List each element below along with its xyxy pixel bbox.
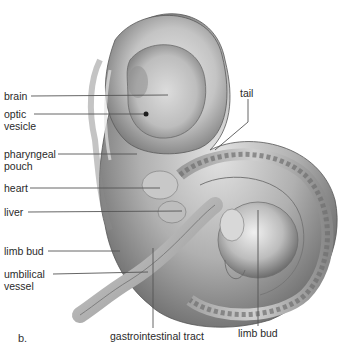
label-liver-text: liver xyxy=(4,206,23,218)
label-limb-bud-lower-text: limb bud xyxy=(238,327,278,339)
label-gastrointestinal-tract: gastrointestinal tract xyxy=(110,330,204,342)
label-limb-bud-upper: limb bud xyxy=(4,245,44,257)
label-umbilical-vessel-line1: umbilical xyxy=(4,268,45,280)
label-tail: tail xyxy=(240,87,253,99)
label-optic-vesicle: optic vesicle xyxy=(4,108,36,132)
embryo-illustration xyxy=(0,0,344,345)
label-umbilical-vessel-line2: vessel xyxy=(4,280,45,292)
label-brain: brain xyxy=(4,90,27,102)
label-brain-text: brain xyxy=(4,90,27,102)
label-optic-vesicle-line2: vesicle xyxy=(4,120,36,132)
label-pharyngeal-pouch: pharyngeal pouch xyxy=(4,148,56,172)
optic-vesicle-dot xyxy=(144,112,149,117)
label-limb-bud-lower: limb bud xyxy=(238,327,278,339)
heart-bulge xyxy=(142,171,178,199)
label-tail-text: tail xyxy=(240,87,253,99)
label-heart: heart xyxy=(4,182,28,194)
label-pharyngeal-pouch-line2: pouch xyxy=(4,160,56,172)
label-limb-bud-upper-text: limb bud xyxy=(4,245,44,257)
label-gastrointestinal-tract-text: gastrointestinal tract xyxy=(110,330,204,342)
label-pharyngeal-pouch-line1: pharyngeal xyxy=(4,148,56,160)
label-optic-vesicle-line1: optic xyxy=(4,108,36,120)
label-heart-text: heart xyxy=(4,182,28,194)
panel-letter: b. xyxy=(18,332,27,344)
liver-bulge xyxy=(158,201,186,223)
label-umbilical-vessel: umbilical vessel xyxy=(4,268,45,292)
label-liver: liver xyxy=(4,206,23,218)
embryo-diagram: brain optic vesicle pharyngeal pouch hea… xyxy=(0,0,344,345)
